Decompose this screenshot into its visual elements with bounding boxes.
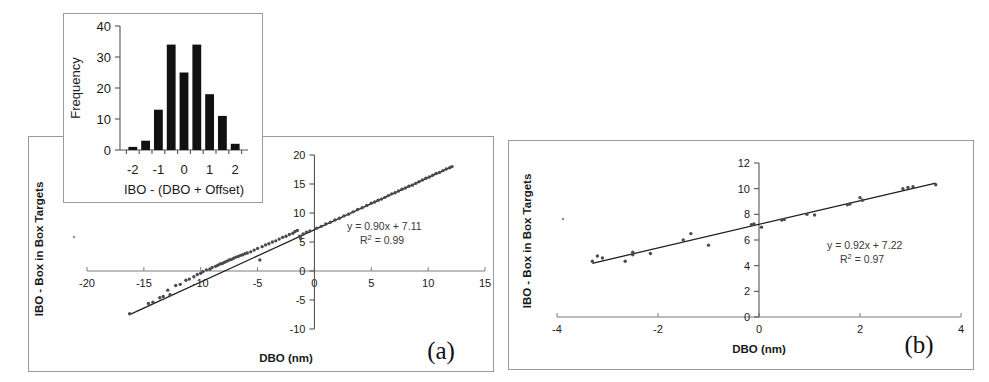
data-point [591,259,594,262]
data-point [196,273,199,276]
data-point [424,177,427,180]
panel-a-y-axis-title: IBO - Box in Box Targets [33,182,45,317]
y-axis-tick-label: 0 [744,311,750,323]
data-point [205,268,208,271]
r-value: = 0.99 [372,234,405,246]
data-point [320,225,323,228]
panel-b-y-axis-title: IBO - Box in Box Targets [521,174,533,309]
inset-y-axis-tick-label: 40 [97,19,111,34]
data-point [267,242,270,245]
figure-container: -20-15-10-5051015-10-505101520y = 0.90x … [0,0,989,382]
data-point [274,239,277,242]
data-point [906,186,909,189]
y-axis-tick-label: 10 [293,207,305,219]
panel-a-r-squared-label: R2 = 0.99 [360,233,404,246]
inset-y-axis-title: Frequency [68,57,83,119]
y-axis-tick-label: 20 [293,149,305,161]
panel-b-r-squared-label: R2 = 0.97 [840,252,884,265]
stray-speck [73,236,75,238]
data-point [450,165,453,168]
data-point [296,229,299,232]
data-point [301,232,304,235]
data-point [431,174,434,177]
x-axis-tick-label: 2 [857,323,863,335]
x-axis-tick-label: -4 [552,323,562,335]
x-axis-tick-label: 0 [756,323,762,335]
data-point [179,283,182,286]
data-point [271,240,274,243]
x-axis-tick-label: 10 [422,277,434,289]
histogram-bar [192,45,201,150]
data-point [411,183,414,186]
x-axis-tick-label: -15 [136,277,152,289]
data-point [151,301,154,304]
histogram-bar [205,94,214,150]
data-point [360,206,363,209]
data-point [324,222,327,225]
inset-x-axis-tick-label: 2 [232,162,239,177]
data-point [373,200,376,203]
y-axis-tick-label: 12 [738,157,750,169]
inset-y-axis-tick-label: 20 [97,81,111,96]
data-point [166,288,169,291]
data-point [299,237,302,240]
data-point [333,218,336,221]
data-point [393,191,396,194]
data-point [184,279,187,282]
panel-b: -4-2024024681012y = 0.92x + 7.22R2 = 0.9… [508,140,974,370]
inset-y-axis-tick-label: 0 [104,143,111,158]
data-point [848,202,851,205]
data-point [246,251,249,254]
data-point [707,243,710,246]
inset-histogram-plot: 010203040-2-1012IBO - (DBO + Offset)Freq… [64,14,262,202]
x-axis-tick-label: -20 [79,277,95,289]
data-point [252,248,255,251]
data-point [813,213,816,216]
data-point [192,275,195,278]
panel-b-plot: -4-2024024681012y = 0.92x + 7.22R2 = 0.9… [509,141,973,369]
data-point [376,199,379,202]
data-point [383,196,386,199]
data-point [397,189,400,192]
data-point [390,192,393,195]
data-point [417,180,420,183]
data-point [911,185,914,188]
inset-y-axis-tick-label: 30 [97,50,111,65]
y-axis-tick-label: -10 [290,323,306,335]
data-point [370,201,373,204]
inset-x-axis-tick-label: 1 [206,162,213,177]
y-axis-tick-label: 6 [744,234,750,246]
y-axis-tick-label: 8 [744,208,750,220]
x-axis-tick-label: 4 [958,323,964,335]
histogram-bar [231,144,240,150]
y-axis-tick-label: 2 [744,285,750,297]
data-point [783,218,786,221]
histogram-bar [167,45,176,150]
y-axis-tick-label: 4 [744,260,750,272]
histogram-bar [180,73,189,151]
data-point [901,187,904,190]
data-point [338,217,341,220]
data-point [631,253,634,256]
data-point [438,171,441,174]
data-point [315,226,318,229]
panel-a-letter: (a) [427,337,455,365]
data-point [347,212,350,215]
data-point [934,183,937,186]
y-axis-tick-label: 0 [299,265,305,277]
x-axis-tick-label: 15 [479,277,491,289]
data-point [858,196,861,199]
data-point [752,222,755,225]
data-point [264,243,267,246]
x-axis-tick-label: -5 [253,277,263,289]
data-point [380,197,383,200]
data-point [277,237,280,240]
histogram-bar [218,116,227,150]
r-value: = 0.97 [852,253,885,265]
data-point [201,270,204,273]
data-point [861,199,864,202]
data-point [596,254,599,257]
data-point [188,277,191,280]
panel-a-equation-label: y = 0.90x + 7.11 [347,220,422,232]
histogram-bar [128,147,137,150]
